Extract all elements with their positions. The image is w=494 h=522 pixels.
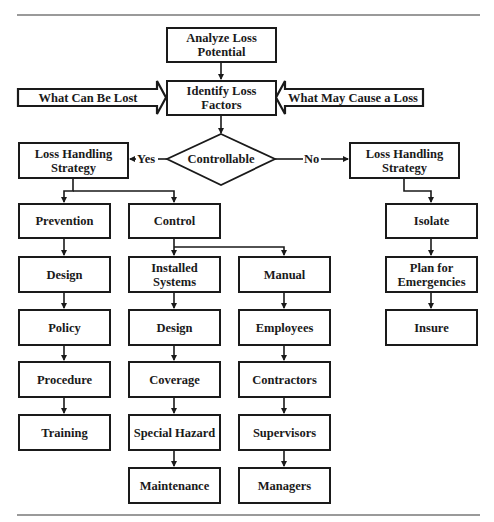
maintenance-box: Maintenance bbox=[128, 467, 221, 504]
prevention-box: Prevention bbox=[18, 203, 111, 239]
employees-label: Employees bbox=[256, 321, 314, 335]
plan-for-emergencies-box: Plan for Emergencies bbox=[385, 256, 478, 293]
insure-label: Insure bbox=[414, 321, 449, 335]
supervisors-label: Supervisors bbox=[253, 426, 316, 440]
contractors-box: Contractors bbox=[238, 361, 331, 398]
control-box: Control bbox=[128, 203, 221, 239]
loss-handling-strategy-no-box: Loss Handling Strategy bbox=[349, 142, 460, 179]
yes-label: Yes bbox=[137, 152, 155, 166]
installed-design-label: Design bbox=[156, 321, 192, 335]
installed-systems-label: Installed Systems bbox=[151, 261, 198, 289]
installed-design-box: Design bbox=[128, 309, 221, 346]
identify-loss-factors-box: Identify Loss Factors bbox=[166, 80, 277, 116]
loss-handling-strategy-yes-box: Loss Handling Strategy bbox=[18, 142, 129, 179]
control-label: Control bbox=[154, 214, 195, 228]
plan-for-emergencies-label: Plan for Emergencies bbox=[397, 261, 465, 289]
supervisors-box: Supervisors bbox=[238, 414, 331, 451]
procedure-label: Procedure bbox=[37, 373, 92, 387]
training-box: Training bbox=[18, 414, 111, 451]
isolate-label: Isolate bbox=[414, 214, 449, 228]
policy-box: Policy bbox=[18, 309, 111, 346]
coverage-box: Coverage bbox=[128, 361, 221, 398]
policy-label: Policy bbox=[48, 321, 81, 335]
contractors-label: Contractors bbox=[252, 373, 317, 387]
loss-handling-strategy-yes-label: Loss Handling Strategy bbox=[35, 147, 112, 175]
special-hazard-box: Special Hazard bbox=[128, 414, 221, 451]
installed-systems-box: Installed Systems bbox=[128, 256, 221, 293]
maintenance-label: Maintenance bbox=[140, 479, 209, 493]
procedure-box: Procedure bbox=[18, 361, 111, 398]
analyze-loss-potential-label: Analyze Loss Potential bbox=[186, 31, 257, 59]
special-hazard-label: Special Hazard bbox=[134, 426, 216, 440]
controllable-label: Controllable bbox=[167, 150, 275, 168]
analyze-loss-potential-box: Analyze Loss Potential bbox=[166, 27, 277, 63]
insure-box: Insure bbox=[385, 309, 478, 346]
identify-loss-factors-label: Identify Loss Factors bbox=[187, 84, 257, 112]
what-can-be-lost-label: What Can Be Lost bbox=[20, 90, 156, 105]
managers-label: Managers bbox=[258, 479, 311, 493]
isolate-box: Isolate bbox=[385, 203, 478, 239]
manual-box: Manual bbox=[238, 256, 331, 293]
employees-box: Employees bbox=[238, 309, 331, 346]
training-label: Training bbox=[41, 426, 87, 440]
prevention-design-label: Design bbox=[46, 268, 82, 282]
managers-box: Managers bbox=[238, 467, 331, 504]
prevention-label: Prevention bbox=[35, 214, 93, 228]
no-label: No bbox=[304, 152, 319, 166]
what-may-cause-a-loss-label: What May Cause a Loss bbox=[284, 90, 422, 105]
manual-label: Manual bbox=[264, 268, 306, 282]
coverage-label: Coverage bbox=[149, 373, 200, 387]
loss-handling-strategy-no-label: Loss Handling Strategy bbox=[366, 147, 443, 175]
prevention-design-box: Design bbox=[18, 256, 111, 293]
